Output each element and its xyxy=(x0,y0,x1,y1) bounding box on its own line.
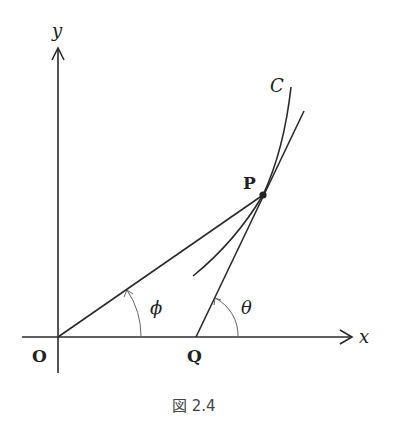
angle-phi-arc xyxy=(127,290,141,337)
theta-label: θ xyxy=(241,297,252,318)
curve-c xyxy=(193,87,291,276)
angle-theta-arrowhead xyxy=(214,298,221,305)
q-label: Q xyxy=(187,346,202,366)
figure: x y ϕ θ O Q P C 図 2.4 xyxy=(0,0,394,434)
figure-caption: 図 2.4 xyxy=(172,397,216,415)
point-p xyxy=(259,191,266,198)
origin-label: O xyxy=(32,346,47,366)
phi-label: ϕ xyxy=(150,297,162,318)
y-axis xyxy=(52,48,64,373)
p-label: P xyxy=(243,173,256,193)
x-axis-label: x xyxy=(359,326,369,347)
y-axis-label: y xyxy=(51,20,63,41)
angle-theta-arc xyxy=(215,298,238,337)
x-axis xyxy=(22,330,352,344)
curve-c-label: C xyxy=(270,75,284,96)
